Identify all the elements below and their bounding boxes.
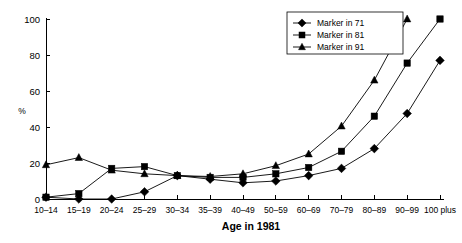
x-axis-title: Age in 1981 bbox=[222, 220, 281, 232]
x-tick-label: 20–24 bbox=[100, 205, 124, 215]
data-point-marker bbox=[107, 195, 116, 204]
data-point-marker bbox=[305, 150, 312, 157]
data-point-marker bbox=[273, 171, 279, 177]
x-tick-label: 60–69 bbox=[297, 205, 321, 215]
x-tick-label: 15–19 bbox=[67, 205, 91, 215]
legend-label: Marker in 71 bbox=[317, 18, 365, 28]
data-point-marker bbox=[304, 171, 313, 180]
x-tick-label: 40–49 bbox=[231, 205, 255, 215]
chart-legend: Marker in 71Marker in 81Marker in 91 bbox=[287, 12, 403, 54]
line-chart: 02040608010010–1415–1920–2425–2930–3435–… bbox=[0, 0, 462, 243]
x-tick-label: 10–14 bbox=[34, 205, 58, 215]
data-point-marker bbox=[437, 16, 443, 22]
y-axis-title: % bbox=[18, 106, 26, 116]
legend-label: Marker in 91 bbox=[317, 42, 365, 52]
y-tick-label: 100 bbox=[24, 14, 40, 25]
legend-label: Marker in 81 bbox=[317, 30, 365, 40]
x-tick-label: 80–89 bbox=[363, 205, 387, 215]
x-tick-label: 35–39 bbox=[198, 205, 222, 215]
y-tick-label: 0 bbox=[35, 194, 40, 205]
x-tick-label: 70–79 bbox=[330, 205, 354, 215]
series-1 bbox=[42, 56, 445, 203]
data-point-marker bbox=[76, 190, 82, 196]
data-point-marker bbox=[371, 113, 377, 119]
x-tick-label: 100 plus bbox=[424, 205, 456, 215]
data-point-marker bbox=[299, 32, 305, 38]
chart-container: 02040608010010–1415–1920–2425–2930–3435–… bbox=[0, 0, 462, 243]
x-tick-label: 30–34 bbox=[166, 205, 190, 215]
x-tick-label: 25–29 bbox=[133, 205, 157, 215]
data-point-marker bbox=[75, 154, 82, 161]
data-point-marker bbox=[404, 60, 410, 66]
data-point-marker bbox=[43, 194, 49, 200]
x-tick-label: 90–99 bbox=[395, 205, 419, 215]
y-tick-label: 60 bbox=[29, 86, 40, 97]
data-point-marker bbox=[338, 148, 344, 154]
data-point-marker bbox=[141, 163, 147, 169]
y-tick-label: 80 bbox=[29, 50, 40, 61]
data-point-marker bbox=[140, 187, 149, 196]
data-point-marker bbox=[305, 164, 311, 170]
data-point-marker bbox=[337, 164, 346, 173]
data-point-marker bbox=[436, 56, 445, 65]
y-tick-label: 40 bbox=[29, 122, 40, 133]
data-point-marker bbox=[272, 177, 281, 186]
data-point-marker bbox=[371, 76, 378, 83]
x-tick-label: 50–59 bbox=[264, 205, 288, 215]
y-tick-label: 20 bbox=[29, 158, 40, 169]
data-point-marker bbox=[403, 15, 410, 22]
